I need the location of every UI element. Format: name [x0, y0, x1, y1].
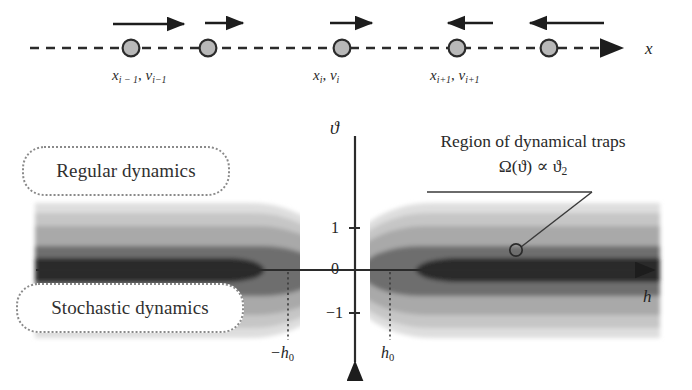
annotation-formula: Ω(ϑ) ∝ ϑ2 — [398, 156, 668, 177]
callout-regular-dynamics-label: Regular dynamics — [56, 160, 195, 182]
annotation-leader — [427, 192, 592, 256]
annotation-region-of-dynamical-traps: Region of dynamical traps Ω(ϑ) ∝ ϑ2 — [398, 131, 668, 177]
x-tick-h0-sub: 0 — [389, 352, 394, 363]
annotation-line-1: Region of dynamical traps — [398, 131, 668, 152]
annotation-formula-base: Ω(ϑ) ∝ ϑ — [499, 156, 562, 176]
y-tick-label-minus-1: −1 — [326, 305, 343, 321]
annotation-leader-diagonal — [521, 192, 592, 247]
x-tick-label-h0: h0 — [381, 345, 394, 364]
theta-axis-label: ϑ — [330, 119, 339, 137]
figure-canvas: x xi − 1, νi−1 xi, νi xi+1, νi+1 — [0, 0, 692, 390]
h-axis-label: h — [643, 288, 652, 305]
callout-stochastic-dynamics-label: Stochastic dynamics — [51, 297, 209, 319]
x-tick-minus-h0-sub: 0 — [289, 352, 294, 363]
x-tick-h0-base: h — [381, 344, 389, 361]
x-tick-label-minus-h0: −h0 — [270, 345, 294, 364]
annotation-leader-endpoint-circle — [510, 244, 522, 256]
y-tick-label-0: 0 — [331, 261, 339, 277]
y-tick-label-1: 1 — [331, 220, 339, 236]
callout-regular-dynamics: Regular dynamics — [22, 146, 230, 196]
annotation-formula-sub: 2 — [561, 165, 567, 177]
x-tick-minus-h0-base: −h — [270, 344, 289, 361]
callout-stochastic-dynamics: Stochastic dynamics — [16, 283, 244, 333]
